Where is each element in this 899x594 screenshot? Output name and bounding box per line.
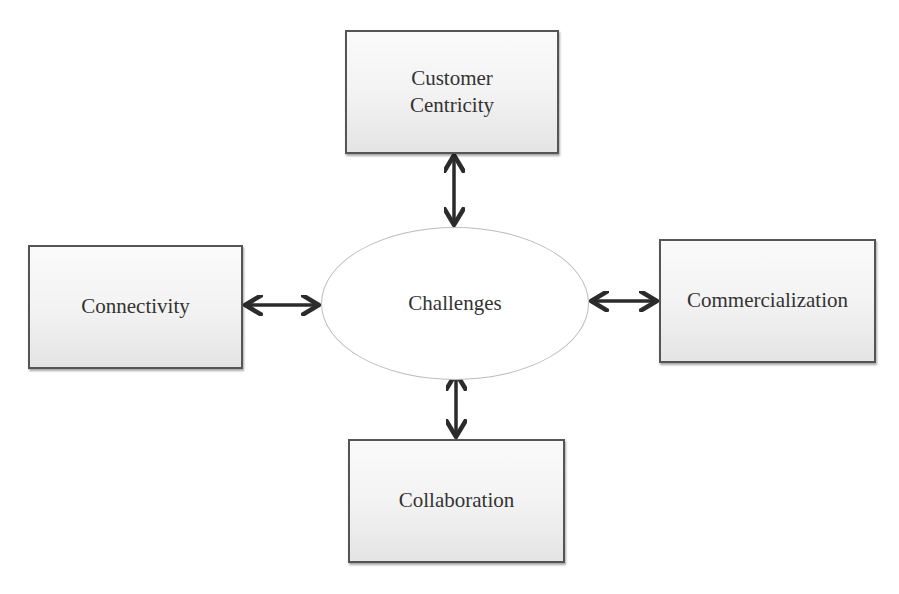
node-connectivity-label: Connectivity (81, 293, 190, 320)
node-customer-centricity-line1: Customer (410, 65, 494, 92)
node-challenges-label: Challenges (408, 291, 501, 316)
node-commercialization: Commercialization (659, 239, 876, 363)
node-commercialization-label: Commercialization (687, 287, 848, 314)
node-collaboration: Collaboration (348, 439, 565, 563)
node-customer-centricity: Customer Centricity (345, 30, 559, 154)
node-challenges: Challenges (321, 227, 589, 380)
node-collaboration-label: Collaboration (399, 487, 514, 514)
node-connectivity: Connectivity (28, 245, 243, 369)
node-customer-centricity-line2: Centricity (410, 92, 494, 119)
